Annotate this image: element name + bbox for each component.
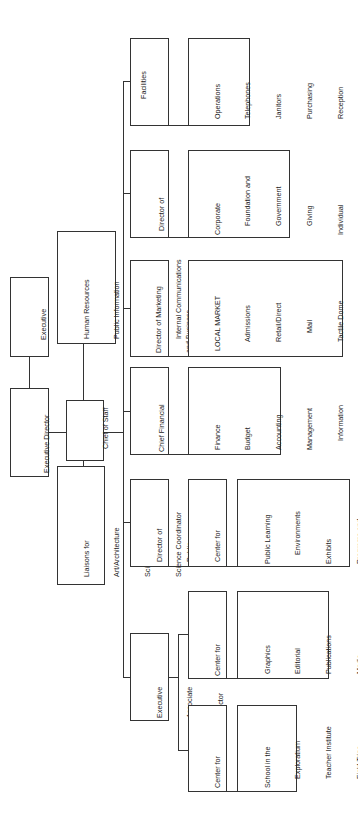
trunk-to-associate	[123, 677, 130, 678]
facilities-item: Telephones	[243, 82, 253, 119]
executive-director-label: Executive Director	[42, 415, 52, 473]
marketing-title-line: Director of Marketing	[154, 286, 164, 353]
development-item: Corporate	[213, 176, 223, 235]
associate-title-line: Executive	[155, 687, 165, 718]
teaching-item: Teacher Institute	[324, 726, 334, 788]
public-programs-item: Exhibits	[324, 511, 334, 564]
development-items-box: Corporate Foundation and Government Givi…	[188, 150, 290, 238]
row-baseline-marketing	[169, 356, 188, 357]
cfo-item: Information	[336, 405, 346, 450]
cfo-items-box: Finance Budget Accounting Management Inf…	[188, 367, 281, 455]
development-item: Giving	[305, 176, 315, 235]
trunk-to-development	[123, 193, 130, 194]
public-exhibition-line: Center for	[213, 530, 223, 562]
executive-assistants-box: Executive Assistants	[10, 277, 49, 357]
associate-director-box: Executive Associate Director	[130, 633, 169, 721]
development-item: Foundation and	[243, 176, 253, 235]
development-title-line: Director of	[157, 189, 167, 231]
media-item: Graphics	[263, 622, 273, 674]
cfo-box: Chief Financial Officer	[130, 367, 169, 455]
executive-director-box: Executive Director	[10, 388, 49, 477]
director-to-assistants	[29, 357, 30, 388]
duty-item: Public Information	[112, 260, 122, 340]
facilities-item: Janitors	[274, 82, 284, 119]
row-baseline-media	[226, 678, 237, 679]
development-box: Director of Development	[130, 150, 169, 238]
local-market-item: Mail	[305, 278, 315, 351]
teaching-items-box: School in the Exploratium Teacher Instit…	[237, 705, 297, 792]
facilities-title: Facilities	[139, 71, 149, 99]
media-center-line: Center for	[213, 626, 223, 676]
fork-to-media	[178, 634, 188, 635]
media-item: Publications	[324, 622, 334, 674]
teaching-center-box: Center for Teaching and Learning	[188, 705, 227, 792]
marketing-items-box: LOCAL MARKET Admissions Retail/Direct Ma…	[188, 260, 343, 357]
local-market-item: Retail/Direct	[274, 278, 284, 351]
facilities-item: Reception	[336, 82, 346, 119]
cfo-item: Finance	[213, 405, 223, 450]
fork-to-teaching	[178, 750, 188, 751]
facilities-items-box: Operations Telephones Janitors Purchasin…	[188, 38, 250, 126]
row-baseline-development	[169, 237, 188, 238]
cfo-item: Management	[305, 405, 315, 450]
cfo-item: Accounting	[274, 405, 284, 450]
local-market-item: Admissions	[243, 278, 253, 351]
public-programs-item: Public Learning	[263, 511, 273, 564]
chief-of-staff-label: Chief of Staff	[101, 408, 111, 449]
row-baseline-cfo	[169, 454, 188, 455]
public-programs-item: Environments	[293, 511, 303, 564]
trunk-to-facilities	[123, 81, 130, 82]
liaisons-box: Liaisons for Art/Architecture Science an…	[57, 466, 105, 585]
local-market-item: Tactile Dome	[336, 278, 346, 351]
main-connector	[123, 81, 124, 678]
chief-to-hr	[83, 344, 84, 400]
chief-of-staff-box: Chief of Staff	[66, 400, 104, 461]
facilities-item: Operations	[213, 82, 223, 119]
facilities-box: Facilities	[130, 38, 169, 126]
public-exhibition-box: Center for Public Exhibition	[188, 479, 227, 567]
liaison-line: Liaisons for	[82, 508, 92, 577]
chief-of-staff-duties-box: Human Resources Public Information Volun…	[57, 231, 116, 344]
public-exhibition-items-box: Public Learning Environments Exhibits Pr…	[237, 479, 350, 567]
cfo-item: Budget	[243, 405, 253, 450]
facilities-item: Purchasing	[305, 82, 315, 119]
development-item: Government	[274, 176, 284, 235]
media-center-box: Center for Media and Communication	[188, 591, 227, 679]
public-programs-box: Director of Public Programs	[130, 479, 169, 567]
local-market-heading: LOCAL MARKET	[213, 278, 223, 351]
associate-stem	[169, 677, 179, 678]
duty-item: Human Resources	[82, 260, 92, 340]
teaching-center-line: Center for	[213, 745, 223, 788]
teaching-item: School in the	[263, 726, 273, 788]
row-baseline-teaching	[226, 791, 237, 792]
media-item: Editorial	[293, 622, 303, 674]
liaison-line: Art/Architecture	[112, 508, 122, 577]
cfo-title-line: Chief Financial	[157, 404, 167, 452]
public-programs-title-line: Director of	[155, 529, 165, 562]
teaching-item: Exploratium	[293, 726, 303, 788]
development-item: Individual	[336, 176, 346, 235]
media-items-box: Graphics Editorial Publications Media In…	[237, 591, 329, 679]
row-baseline-facilities	[169, 125, 188, 126]
marketing-box: Director of Marketing and Business Devel…	[130, 260, 169, 357]
assistants-line: Executive	[39, 298, 49, 340]
